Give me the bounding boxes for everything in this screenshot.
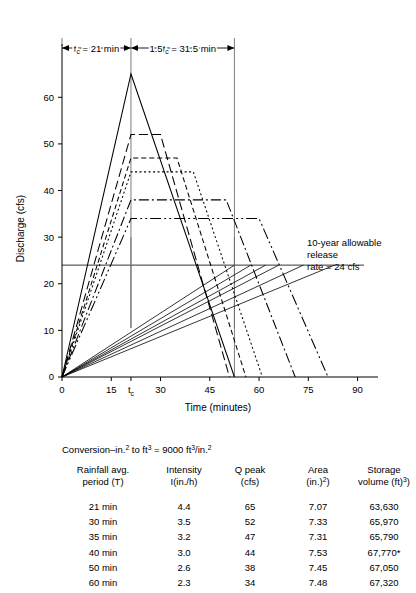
table-cell-period: 40 min bbox=[89, 547, 118, 558]
table-cell-storage: 67,320 bbox=[369, 577, 398, 588]
table-header-line1: Storage bbox=[367, 464, 400, 475]
table-cell-qpeak: 44 bbox=[245, 547, 256, 558]
release-line-21-min bbox=[62, 265, 234, 377]
table-header-line2: (cfs) bbox=[241, 476, 259, 487]
table-cell-intensity: 3.0 bbox=[177, 547, 190, 558]
y-tick-label: 10 bbox=[43, 325, 54, 336]
dimension-arrowhead bbox=[124, 45, 131, 51]
hydrograph-21-min bbox=[62, 74, 234, 377]
y-tick-label: 30 bbox=[43, 232, 54, 243]
annotation-line-1: 10-year allowable bbox=[307, 237, 381, 248]
table-cell-qpeak: 38 bbox=[245, 562, 256, 573]
table-cell-intensity: 4.4 bbox=[177, 501, 190, 512]
release-line-35-min bbox=[62, 265, 266, 377]
table-cell-qpeak: 52 bbox=[245, 516, 256, 527]
table-header-line2: period (T) bbox=[82, 476, 123, 487]
table-cell-intensity: 2.3 bbox=[177, 577, 190, 588]
table-cell-period: 30 min bbox=[89, 516, 118, 527]
table-cell-storage: 67,770* bbox=[368, 547, 401, 558]
release-line-50-min bbox=[62, 265, 303, 377]
table-cell-area: 7.48 bbox=[309, 577, 328, 588]
dimension-label: 1.5tc = 31.5 min bbox=[149, 43, 216, 56]
table-cell-qpeak: 65 bbox=[245, 501, 256, 512]
table-cell-area: 7.07 bbox=[309, 501, 328, 512]
x-tick-label: 45 bbox=[205, 384, 216, 395]
table-cell-storage: 65,790 bbox=[369, 531, 398, 542]
table-cell-area: 7.45 bbox=[309, 562, 328, 573]
y-tick-label: 50 bbox=[43, 138, 54, 149]
table-cell-area: 7.31 bbox=[309, 531, 328, 542]
y-tick-label: 60 bbox=[43, 92, 54, 103]
y-tick-label: 40 bbox=[43, 185, 54, 196]
table-cell-storage: 65,970 bbox=[369, 516, 398, 527]
dimension-arrowhead bbox=[131, 45, 138, 51]
y-tick-label: 0 bbox=[49, 371, 54, 382]
annotation-line-3: rate = 24 cfs bbox=[307, 261, 360, 272]
table-cell-storage: 63,630 bbox=[369, 501, 398, 512]
hydrograph-30-min bbox=[62, 135, 229, 377]
x-tick-label: 0 bbox=[59, 384, 64, 395]
reference-lines bbox=[62, 38, 364, 377]
table-cell-area: 7.53 bbox=[309, 547, 328, 558]
x-axis-title: Time (minutes) bbox=[185, 402, 251, 413]
hydrograph-curves bbox=[62, 74, 328, 377]
dimension-arrowhead bbox=[227, 45, 234, 51]
table-cell-period: 50 min bbox=[89, 562, 118, 573]
x-tick-label: 75 bbox=[303, 384, 314, 395]
table-cell-period: 35 min bbox=[89, 531, 118, 542]
x-tick-label-tc: tc bbox=[128, 384, 135, 397]
table-cell-period: 60 min bbox=[89, 577, 118, 588]
x-tick-label: 15 bbox=[106, 384, 117, 395]
table-header-line1: Intensity bbox=[166, 464, 202, 475]
table-cell-intensity: 3.5 bbox=[177, 516, 190, 527]
y-tick-label: 20 bbox=[43, 278, 54, 289]
table-header-line1: Q peak bbox=[235, 464, 266, 475]
dimension-arrowhead bbox=[62, 45, 69, 51]
table-cell-storage: 67,050 bbox=[369, 562, 398, 573]
table-cell-area: 7.33 bbox=[309, 516, 328, 527]
table-header-line2: (in.)2) bbox=[306, 476, 329, 487]
table-cell-period: 21 min bbox=[89, 501, 118, 512]
table-header-line1: Area bbox=[308, 464, 329, 475]
table-cell-intensity: 2.6 bbox=[177, 562, 190, 573]
table-header-line1: Rainfall avg. bbox=[77, 464, 129, 475]
table-header-line2: volume (ft)3) bbox=[358, 476, 410, 487]
summary-table: Conversion–in.2 to ft3 = 9000 ft3/in.2Ra… bbox=[62, 444, 410, 588]
hydrograph-50-min bbox=[62, 200, 295, 377]
release-line-30-min bbox=[62, 265, 251, 377]
hydrograph-40-min bbox=[62, 172, 262, 377]
x-tick-label: 30 bbox=[155, 384, 166, 395]
table-cell-qpeak: 34 bbox=[245, 577, 256, 588]
y-axis-title: Discharge (cfs) bbox=[15, 195, 26, 262]
dimension-annotations: tc = 21 min1.5tc = 31.5 min bbox=[62, 43, 234, 56]
x-tick-label: 90 bbox=[352, 384, 363, 395]
dimension-label: tc = 21 min bbox=[74, 43, 119, 56]
table-header-line2: I(in./h) bbox=[171, 476, 198, 487]
x-tick-label: 60 bbox=[254, 384, 265, 395]
annotation-line-2: release bbox=[307, 249, 338, 260]
table-cell-intensity: 3.2 bbox=[177, 531, 190, 542]
hydrograph-35-min bbox=[62, 158, 246, 377]
conversion-note: Conversion–in.2 to ft3 = 9000 ft3/in.2 bbox=[62, 444, 212, 455]
allowable-release-annotation: 10-year allowablereleaserate = 24 cfs bbox=[307, 237, 381, 272]
hydrograph-figure: tc = 21 min1.5tc = 31.5 min 015304560759… bbox=[0, 0, 416, 593]
table-cell-qpeak: 47 bbox=[245, 531, 256, 542]
hydrograph-chart: tc = 21 min1.5tc = 31.5 min 015304560759… bbox=[0, 0, 416, 593]
